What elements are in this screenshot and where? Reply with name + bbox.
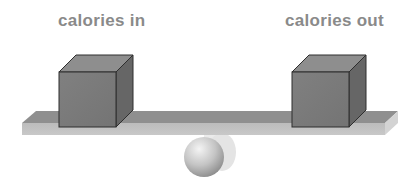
right-cube-front [292, 72, 349, 127]
left-block-calories-in [59, 55, 133, 127]
fulcrum [184, 133, 236, 177]
label-calories-out: calories out [285, 11, 384, 31]
left-cube-front [59, 72, 116, 127]
right-block-calories-out [292, 55, 366, 127]
fulcrum-sphere [184, 137, 224, 177]
label-calories-in: calories in [58, 11, 145, 31]
